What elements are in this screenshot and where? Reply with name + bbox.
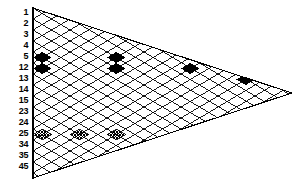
grid-line-down--16 [33,0,306,10]
grid-line-down--10 [33,0,306,76]
grid-line-down--14 [33,0,306,32]
grid-line-down--12 [33,0,306,54]
grid-line-up-5 [33,0,306,63]
grid-line-up-2 [33,0,306,30]
triangle-outline [33,7,292,179]
lattice-svg [0,0,306,187]
grid-line-down-16 [33,184,306,187]
grid-line-up-25 [33,105,306,187]
grid-line-up-28 [33,138,306,187]
lattice-grid [0,0,306,187]
gridlines-layer [33,0,306,187]
grid-line-down-2 [33,30,306,187]
grid-line-up-13 [33,0,306,151]
grid-line-up-7 [33,0,306,85]
grid-line-up-32 [33,182,306,187]
grid-line-down-4 [33,52,306,187]
grid-line-up-6 [33,0,306,74]
grid-line-up-20 [33,50,306,187]
grid-line-down-15 [33,173,306,187]
lattice-figure: 1234512131415232425343545 [0,0,306,187]
grid-line-up-1 [33,0,306,19]
grid-line-up-18 [33,28,306,187]
grid-line-up-24 [33,94,306,187]
grid-line-up-15 [33,0,306,173]
grid-line-up-4 [33,0,306,52]
grid-line-up-31 [33,171,306,187]
grid-line-up-3 [33,0,306,41]
grid-line-down--15 [33,0,306,21]
grid-line-up-21 [33,61,306,187]
grid-line-down-9 [33,107,306,187]
grid-line-up-14 [33,0,306,162]
grid-line-down-14 [33,162,306,187]
grid-line-up-0 [33,0,306,8]
grid-line-up-16 [33,6,306,184]
grid-line-down-12 [33,140,306,187]
grid-line-down-13 [33,151,306,187]
grid-line-down-0 [33,8,306,186]
grid-line-up-8 [33,0,306,96]
grid-line-down-10 [33,118,306,187]
grid-line-up-29 [33,149,306,187]
grid-line-down--2 [33,0,306,164]
